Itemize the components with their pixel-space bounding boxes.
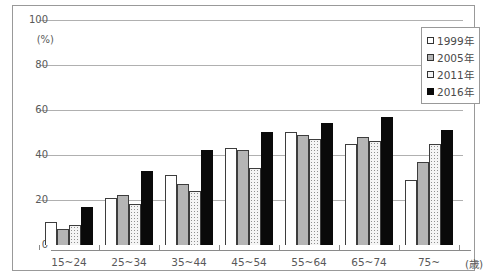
x-axis-tick — [459, 245, 460, 250]
bar-2005年-25~34 — [117, 195, 129, 245]
x-axis-tick — [279, 245, 280, 250]
x-axis-tick — [39, 245, 40, 250]
bar-1999年-25~34 — [105, 198, 117, 245]
x-axis-tick — [159, 245, 160, 250]
bar-2005年-35~44 — [177, 184, 189, 245]
bar-2016年-75~ — [441, 130, 453, 245]
bar-2005年-55~64 — [297, 135, 309, 245]
plot-area — [39, 20, 459, 245]
bar-2005年-65~74 — [357, 137, 369, 245]
bar-2016年-15~24 — [81, 207, 93, 245]
bar-1999年-45~54 — [225, 148, 237, 245]
legend-box: 1999年2005年2011年2016年 — [421, 27, 480, 104]
bar-2016年-25~34 — [141, 171, 153, 245]
bar-2011年-35~44 — [189, 191, 201, 245]
x-tick-label-15~24: 15~24 — [39, 256, 99, 268]
bar-group-15~24 — [39, 20, 99, 245]
x-tick-label-25~34: 25~34 — [99, 256, 159, 268]
legend-item-2016年: 2016年 — [427, 83, 477, 100]
x-tick-label-75~: 75~ — [399, 256, 459, 268]
bar-1999年-35~44 — [165, 175, 177, 245]
bar-group-25~34 — [99, 20, 159, 245]
bar-1999年-15~24 — [45, 222, 57, 245]
bar-2011年-15~24 — [69, 225, 81, 245]
chart-frame: 020406080100 (%) 15~2425~3435~4445~5455~… — [12, 5, 475, 271]
bar-2016年-65~74 — [381, 117, 393, 245]
x-axis-tick — [339, 245, 340, 250]
bar-group-45~54 — [219, 20, 279, 245]
bar-2016年-35~44 — [201, 150, 213, 245]
bar-2011年-65~74 — [369, 141, 381, 245]
bar-group-65~74 — [339, 20, 399, 245]
bar-2016年-55~64 — [321, 123, 333, 245]
legend-label: 2005年 — [437, 50, 474, 65]
bar-2011年-25~34 — [129, 204, 141, 245]
legend-item-2005年: 2005年 — [427, 49, 477, 66]
x-axis-tick — [399, 245, 400, 250]
legend-marker-icon — [427, 54, 434, 61]
legend-marker-icon — [427, 71, 434, 78]
legend-label: 1999年 — [437, 33, 474, 48]
x-tick-label-45~54: 45~54 — [219, 256, 279, 268]
bar-2016年-45~54 — [261, 132, 273, 245]
bar-1999年-65~74 — [345, 144, 357, 245]
x-tick-label-55~64: 55~64 — [279, 256, 339, 268]
legend-marker-icon — [427, 37, 434, 44]
bar-1999年-55~64 — [285, 132, 297, 245]
x-axis-tick — [219, 245, 220, 250]
x-axis-suffix-label: (歳) — [465, 256, 483, 271]
bar-group-55~64 — [279, 20, 339, 245]
bar-2011年-75~ — [429, 144, 441, 245]
bar-2005年-75~ — [417, 162, 429, 245]
x-axis-line — [51, 250, 471, 251]
bar-1999年-75~ — [405, 180, 417, 245]
bar-2011年-45~54 — [249, 168, 261, 245]
chart-canvas: 020406080100 (%) 15~2425~3435~4445~5455~… — [0, 0, 484, 277]
x-axis-tick — [99, 245, 100, 250]
legend-marker-icon — [427, 88, 434, 95]
bar-2005年-45~54 — [237, 150, 249, 245]
legend-label: 2011年 — [437, 67, 474, 82]
x-tick-label-35~44: 35~44 — [159, 256, 219, 268]
bar-2011年-55~64 — [309, 139, 321, 245]
legend-item-2011年: 2011年 — [427, 66, 477, 83]
legend-item-1999年: 1999年 — [427, 32, 477, 49]
bar-2005年-15~24 — [57, 229, 69, 245]
bar-group-35~44 — [159, 20, 219, 245]
legend-label: 2016年 — [437, 84, 474, 99]
x-tick-label-65~74: 65~74 — [339, 256, 399, 268]
